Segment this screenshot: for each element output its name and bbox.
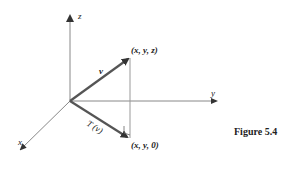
right-angle-marker [124, 126, 130, 135]
y-axis-label: y [210, 88, 215, 98]
x-axis [21, 101, 70, 149]
z-axis-label: z [77, 11, 82, 21]
projection-diagram: z y x v T (v) (x, y, z) (x, y, 0) Figure… [0, 0, 284, 170]
projection-point-label: (x, y, 0) [131, 140, 159, 150]
figure-caption: Figure 5.4 [234, 126, 277, 137]
vector-v-label: v [99, 66, 104, 76]
x-axis-label: x [17, 137, 22, 147]
tip-point-label: (x, y, z) [131, 45, 158, 55]
